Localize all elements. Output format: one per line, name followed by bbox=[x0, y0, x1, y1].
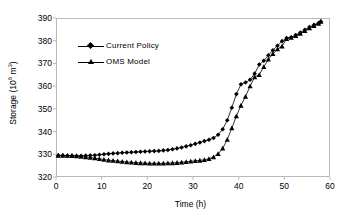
data-point bbox=[229, 126, 234, 131]
data-point bbox=[207, 137, 212, 142]
legend-item-current-policy: Current Policy bbox=[78, 40, 159, 52]
legend-marker-triangle-icon bbox=[78, 57, 104, 67]
data-point bbox=[156, 149, 161, 154]
data-point bbox=[220, 146, 225, 151]
data-point bbox=[230, 105, 235, 110]
data-point bbox=[138, 149, 143, 154]
y-tick-label-340: 340 bbox=[26, 128, 52, 137]
data-point bbox=[211, 136, 216, 141]
data-point bbox=[211, 154, 216, 159]
data-point bbox=[225, 137, 230, 142]
data-point bbox=[234, 114, 239, 119]
y-tick-label-320: 320 bbox=[26, 173, 52, 182]
data-point bbox=[166, 148, 171, 153]
data-point bbox=[261, 64, 266, 69]
data-point bbox=[202, 139, 207, 144]
chart-figure: 320330340350360370380390 0102030405060 T… bbox=[0, 0, 347, 219]
data-point bbox=[239, 82, 244, 87]
y-tick-label-380: 380 bbox=[26, 37, 52, 46]
legend-label: Current Policy bbox=[106, 42, 159, 50]
data-point bbox=[106, 152, 111, 157]
data-point bbox=[161, 148, 166, 153]
data-point bbox=[170, 147, 175, 152]
data-point bbox=[124, 150, 129, 155]
data-point bbox=[243, 80, 248, 85]
x-tick-label-60: 60 bbox=[315, 182, 345, 191]
data-point bbox=[243, 94, 248, 99]
legend-marker-diamond-icon bbox=[78, 41, 104, 51]
x-tick-label-40: 40 bbox=[224, 182, 254, 191]
data-point bbox=[257, 72, 262, 77]
y-tick-label-350: 350 bbox=[26, 105, 52, 114]
legend-item-oms-model: OMS Model bbox=[78, 56, 159, 68]
x-axis-title-text: Time (h) bbox=[175, 199, 206, 209]
data-point bbox=[225, 118, 230, 123]
data-point bbox=[179, 145, 184, 150]
data-point bbox=[234, 92, 239, 97]
y-tick-label-330: 330 bbox=[26, 150, 52, 159]
data-point bbox=[198, 140, 203, 145]
data-point bbox=[279, 44, 284, 49]
y-tick-label-390: 390 bbox=[26, 14, 52, 23]
legend-label: OMS Model bbox=[106, 58, 150, 66]
chart-legend: Current PolicyOMS Model bbox=[78, 40, 159, 72]
x-tick-label-20: 20 bbox=[132, 182, 162, 191]
data-point bbox=[184, 144, 189, 149]
y-axis-title-text: Storage (106 m3) bbox=[8, 61, 18, 124]
data-point bbox=[188, 143, 193, 148]
x-tick-label-50: 50 bbox=[269, 182, 299, 191]
x-tick-label-10: 10 bbox=[87, 182, 117, 191]
y-axis-title: Storage (106 m3) bbox=[8, 28, 18, 158]
x-axis-tick-labels: 0102030405060 bbox=[0, 182, 347, 196]
data-point bbox=[175, 146, 180, 151]
data-point bbox=[102, 152, 107, 157]
data-point bbox=[134, 150, 139, 155]
data-point bbox=[252, 74, 257, 79]
data-point bbox=[238, 103, 243, 108]
data-point bbox=[120, 150, 125, 155]
data-point bbox=[129, 150, 134, 155]
data-point bbox=[111, 151, 116, 156]
x-tick-label-30: 30 bbox=[178, 182, 208, 191]
data-point bbox=[152, 149, 157, 154]
y-tick-label-360: 360 bbox=[26, 82, 52, 91]
data-point bbox=[143, 149, 148, 154]
data-point bbox=[147, 149, 152, 154]
x-tick-label-0: 0 bbox=[41, 182, 71, 191]
x-axis-title: Time (h) bbox=[0, 199, 347, 209]
y-tick-label-370: 370 bbox=[26, 59, 52, 68]
data-point bbox=[193, 142, 198, 147]
data-point bbox=[206, 156, 211, 161]
data-point bbox=[247, 84, 252, 89]
data-point bbox=[115, 151, 120, 156]
